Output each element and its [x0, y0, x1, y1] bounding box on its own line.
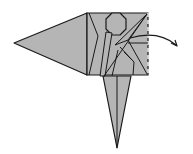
- origami-figure: [0, 0, 193, 154]
- tail-flap: [103, 76, 131, 148]
- head-octagon: [106, 13, 126, 35]
- origami-diagram: [0, 0, 193, 154]
- left-point-flap: [14, 13, 87, 75]
